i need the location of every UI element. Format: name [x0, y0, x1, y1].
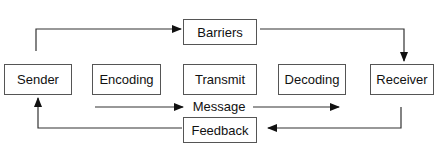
- node-encoding-label: Encoding: [99, 72, 153, 87]
- node-feedback-label: Feedback: [191, 123, 249, 138]
- arrow-barriers-to-receiver: [260, 29, 404, 61]
- node-receiver-label: Receiver: [376, 72, 428, 87]
- node-barriers-label: Barriers: [197, 25, 243, 40]
- communication-diagram: Barriers Sender Encoding Transmit Decodi…: [0, 0, 439, 149]
- node-transmit: Transmit: [184, 65, 257, 95]
- arrow-sender-to-barriers: [36, 29, 181, 51]
- node-decoding-label: Decoding: [285, 72, 340, 87]
- arrow-feedback-to-sender: [38, 98, 182, 128]
- node-sender: Sender: [5, 65, 72, 95]
- node-feedback: Feedback: [184, 118, 257, 143]
- node-transmit-label: Transmit: [195, 72, 245, 87]
- node-barriers: Barriers: [184, 20, 257, 45]
- node-receiver: Receiver: [371, 65, 434, 95]
- node-decoding: Decoding: [279, 65, 346, 95]
- arrow-receiver-to-feedback: [268, 107, 401, 128]
- edge-label-message: Message: [193, 99, 246, 114]
- node-encoding: Encoding: [93, 65, 161, 95]
- node-sender-label: Sender: [17, 72, 60, 87]
